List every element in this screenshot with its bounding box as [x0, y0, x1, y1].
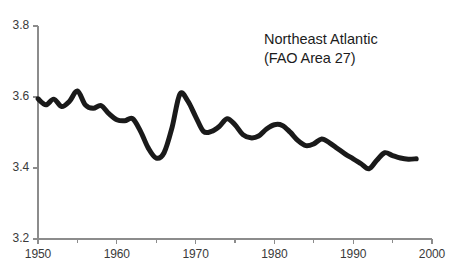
- y-tick-label-3-2: 3.2: [3, 231, 29, 245]
- x-tick-label-1950: 1950: [18, 247, 58, 261]
- annotation-line-region: Northeast Atlantic: [264, 30, 378, 49]
- chart-annotation: Northeast Atlantic (FAO Area 27): [264, 30, 378, 68]
- chart-figure: 3.8 3.6 3.4 3.2 1950 1960 1970 1980 1990…: [0, 0, 456, 274]
- y-tick-label-3-6: 3.6: [3, 89, 29, 103]
- x-tick-label-2000: 2000: [412, 247, 452, 261]
- y-tick-label-3-8: 3.8: [3, 18, 29, 32]
- x-tick-label-1960: 1960: [97, 247, 137, 261]
- data-line-series-0: [38, 91, 416, 169]
- x-tick-label-1970: 1970: [176, 247, 216, 261]
- annotation-line-area-code: (FAO Area 27): [264, 49, 378, 68]
- x-tick-label-1980: 1980: [254, 247, 294, 261]
- x-tick-label-1990: 1990: [333, 247, 373, 261]
- y-tick-label-3-4: 3.4: [3, 160, 29, 174]
- plot-canvas: [0, 0, 456, 274]
